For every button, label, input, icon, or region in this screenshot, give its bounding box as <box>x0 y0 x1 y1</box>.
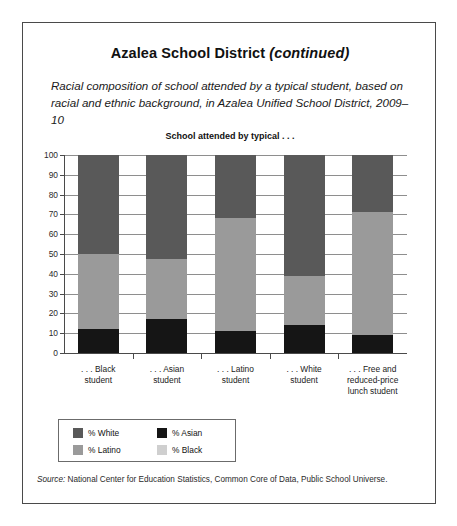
y-axis-tick-label: 70 <box>49 209 58 219</box>
legend-swatch-asian <box>157 428 167 438</box>
legend-item-label: % Latino <box>88 445 121 455</box>
bar-segment <box>215 155 256 218</box>
x-axis-category-label: . . . Free andreduced-pricelunch student <box>330 364 416 397</box>
bar-segment <box>146 259 187 319</box>
bar-segment <box>146 155 187 259</box>
legend-item: % Latino <box>73 445 121 455</box>
source-text: National Center for Education Statistics… <box>65 475 387 484</box>
legend-swatch-black <box>157 445 167 455</box>
bar-segment <box>215 218 256 331</box>
x-tick-mark <box>338 354 339 359</box>
x-axis-label-line: . . . Free and <box>330 364 416 375</box>
chart-header: School attended by typical . . . <box>23 131 437 141</box>
bars-layer <box>64 155 407 353</box>
legend-item-label: % White <box>88 428 119 438</box>
y-axis-tick-label: 20 <box>49 308 58 318</box>
y-axis-tick-label: 40 <box>49 269 58 279</box>
figure-title-continued: (continued) <box>269 45 349 61</box>
bar-column <box>352 155 393 353</box>
x-axis-label-line: lunch student <box>330 386 416 397</box>
y-axis-tick-label: 10 <box>49 328 58 338</box>
figure-page: Azalea School District (continued) Racia… <box>0 0 457 526</box>
legend-item-label: % Black <box>172 445 202 455</box>
bar-segment <box>352 335 393 353</box>
bar-segment <box>352 155 393 212</box>
y-axis-tick-label: 100 <box>44 150 58 160</box>
legend-item-label: % Asian <box>172 428 202 438</box>
bar-segment <box>284 325 325 353</box>
y-axis-tick-label: 30 <box>49 289 58 299</box>
bar-segment <box>78 254 119 329</box>
bar-segment <box>284 276 325 326</box>
source-label: Source: <box>37 475 65 484</box>
figure-title: Azalea School District (continued) <box>23 45 437 61</box>
legend-swatch-latino <box>73 445 83 455</box>
x-tick-mark <box>201 354 202 359</box>
y-axis-tick-label: 0 <box>53 348 58 358</box>
legend-swatch-white <box>73 428 83 438</box>
figure-title-main: Azalea School District <box>111 45 266 61</box>
plot-area: 0102030405060708090100 <box>64 155 407 353</box>
legend-item: % Black <box>157 445 202 455</box>
bar-segment <box>284 155 325 276</box>
y-axis-tick-label: 80 <box>49 190 58 200</box>
bar-segment <box>78 155 119 254</box>
source-note: Source: National Center for Education St… <box>37 475 427 484</box>
legend-item: % White <box>73 428 119 438</box>
bar-column <box>78 155 119 353</box>
x-tick-mark <box>270 354 271 359</box>
y-axis-tick-label: 60 <box>49 229 58 239</box>
chart-legend: % White% Asian% Latino% Black <box>58 419 236 462</box>
figure-subtitle: Racial composition of school attended by… <box>51 78 413 128</box>
y-axis-tick-label: 90 <box>49 170 58 180</box>
bar-column <box>146 155 187 353</box>
bar-segment <box>215 331 256 353</box>
x-tick-mark <box>133 354 134 359</box>
figure-frame: Azalea School District (continued) Racia… <box>22 22 436 504</box>
x-axis-label-line: reduced-price <box>330 375 416 386</box>
bar-segment <box>352 212 393 335</box>
legend-item: % Asian <box>157 428 202 438</box>
y-axis-tick-label: 50 <box>49 249 58 259</box>
bar-column <box>284 155 325 353</box>
bar-segment <box>78 329 119 353</box>
bar-segment <box>146 319 187 353</box>
x-axis-line <box>64 353 407 354</box>
bar-column <box>215 155 256 353</box>
